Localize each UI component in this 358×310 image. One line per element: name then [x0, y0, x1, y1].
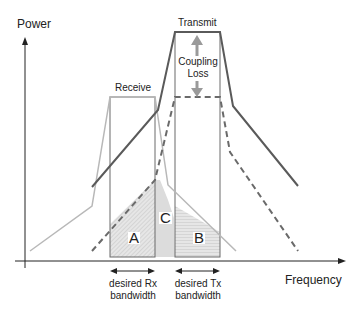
region-b-label: B [193, 232, 205, 244]
coupling-loss-label: Coupling Loss [176, 56, 220, 80]
y-axis-arrow-icon [22, 37, 28, 45]
coupling-arrow-down-icon [191, 88, 203, 97]
transmit-label: Transmit [178, 17, 217, 29]
x-axis-label: Frequency [285, 274, 342, 286]
coupling-arrow-up-icon [191, 35, 203, 45]
y-axis-label: Power [17, 18, 51, 30]
region-c-label: C [159, 212, 172, 224]
receive-label: Receive [115, 82, 151, 94]
x-axis-arrow-icon [338, 258, 346, 264]
rf-coupling-diagram [0, 0, 358, 310]
rx-bandwidth-label: desired Rx bandwidth [104, 278, 162, 302]
region-a-label: A [128, 232, 140, 244]
tx-bandwidth-label: desired Tx bandwidth [169, 278, 227, 302]
